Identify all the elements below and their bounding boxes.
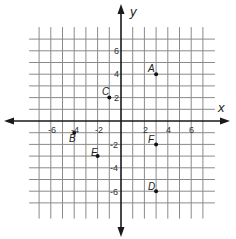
y-tick-label: -4: [110, 164, 118, 173]
x-tick-label: 6: [189, 126, 194, 135]
point-label-b: B: [69, 134, 76, 144]
x-tick-label: -2: [95, 126, 103, 135]
grid-svg: [0, 0, 236, 239]
point-label-f: F: [148, 135, 154, 145]
x-axis-label: x: [218, 101, 225, 114]
x-tick-label: -6: [48, 126, 56, 135]
y-tick-label: -2: [110, 141, 118, 150]
arrow-left-icon: [4, 118, 14, 125]
point-label-d: D: [148, 182, 155, 192]
point-f: [154, 142, 158, 146]
coordinate-plane: [0, 0, 236, 239]
x-tick-label: 4: [166, 126, 171, 135]
point-label-a: A: [148, 64, 155, 74]
arrow-down-icon: [118, 227, 125, 237]
point-label-c: C: [102, 87, 109, 97]
y-axis-label: y: [130, 5, 137, 18]
y-tick-label: 6: [114, 47, 119, 56]
y-tick-label: -6: [110, 188, 118, 197]
y-tick-label: 2: [114, 94, 119, 103]
point-label-e: E: [91, 148, 98, 158]
arrow-right-icon: [220, 118, 230, 125]
y-tick-label: 4: [114, 70, 119, 79]
arrow-up-icon: [118, 4, 125, 14]
